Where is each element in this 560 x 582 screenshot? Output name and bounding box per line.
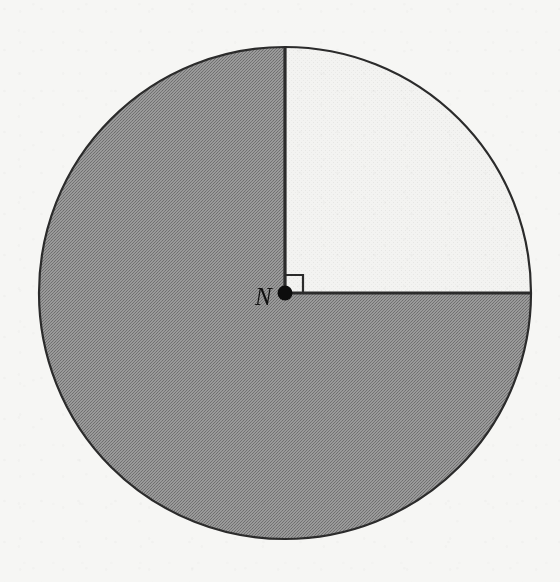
- center-point-label: N: [255, 284, 272, 309]
- figure-root: N: [0, 0, 560, 582]
- quadrant-lower-right: [285, 293, 531, 539]
- quadrant-upper-right: [285, 47, 531, 293]
- quadrant-upper-left: [39, 47, 285, 293]
- quadrant-lower-left: [39, 293, 285, 539]
- center-point-dot: [278, 286, 293, 301]
- circle-diagram: [0, 0, 560, 582]
